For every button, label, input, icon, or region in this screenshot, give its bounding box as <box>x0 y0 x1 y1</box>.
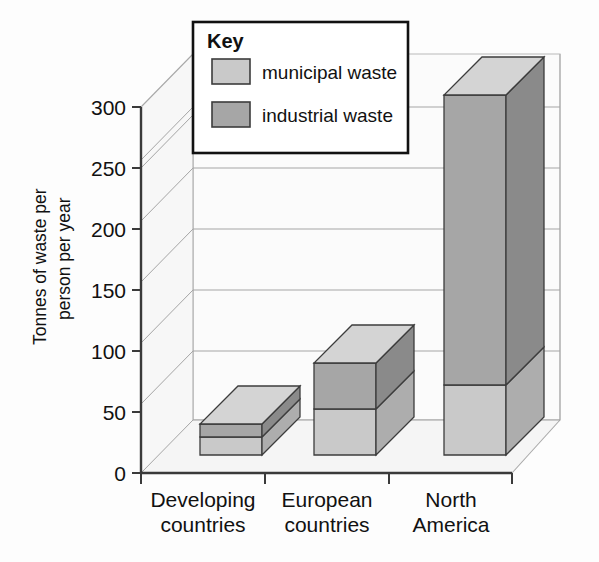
bar-developing-municipal-front <box>200 437 262 455</box>
y-tick-label-150: 150 <box>91 279 126 302</box>
legend-item-municipal-waste[interactable]: municipal waste <box>212 59 397 84</box>
y-axis-ticks <box>132 107 141 473</box>
legend-key[interactable]: Key municipal waste industrial waste <box>193 22 408 153</box>
y-tick-label-250: 250 <box>91 157 126 180</box>
legend-item-industrial-waste[interactable]: industrial waste <box>212 102 393 127</box>
waste-per-person-3d-bar-chart: 0 50 100 150 200 250 300 Tonnes of waste… <box>0 0 599 562</box>
bar-north-america-industrial-front <box>444 95 506 385</box>
bar-north-america-municipal-front <box>444 385 506 455</box>
chart-canvas: 0 50 100 150 200 250 300 Tonnes of waste… <box>0 0 599 562</box>
legend-swatch-industrial-waste <box>212 102 250 127</box>
legend-label-industrial-waste: industrial waste <box>262 105 393 126</box>
legend-label-municipal-waste: municipal waste <box>262 62 397 83</box>
bar-north-america-industrial-side <box>506 57 544 385</box>
y-axis-tick-labels: 0 50 100 150 200 250 300 <box>91 96 126 485</box>
category-label-north-america-line2: America <box>412 513 489 536</box>
category-label-developing-line1: Developing <box>150 488 255 511</box>
x-axis-category-labels: Developing countries European countries … <box>150 488 489 536</box>
x-axis-ticks <box>141 473 512 484</box>
category-label-developing-line2: countries <box>160 513 245 536</box>
y-tick-label-200: 200 <box>91 218 126 241</box>
category-label-european-line1: European <box>281 488 372 511</box>
legend-swatch-municipal-waste <box>212 59 250 84</box>
legend-title: Key <box>207 30 245 52</box>
y-tick-label-50: 50 <box>103 401 126 424</box>
bar-european-municipal-front <box>314 409 376 455</box>
y-axis-title-line2: person per year <box>54 197 74 320</box>
bar-north-america[interactable] <box>444 57 544 455</box>
y-tick-label-0: 0 <box>114 462 126 485</box>
category-label-north-america-line1: North <box>425 488 476 511</box>
category-label-european-line2: countries <box>284 513 369 536</box>
y-tick-label-300: 300 <box>91 96 126 119</box>
left-depth-wall <box>141 54 193 473</box>
bar-developing-industrial-front <box>200 424 262 437</box>
bar-european-industrial-front <box>314 363 376 409</box>
y-tick-label-100: 100 <box>91 340 126 363</box>
y-axis-title-line1: Tonnes of waste per <box>30 188 50 345</box>
y-axis-title: Tonnes of waste per person per year <box>30 188 74 345</box>
